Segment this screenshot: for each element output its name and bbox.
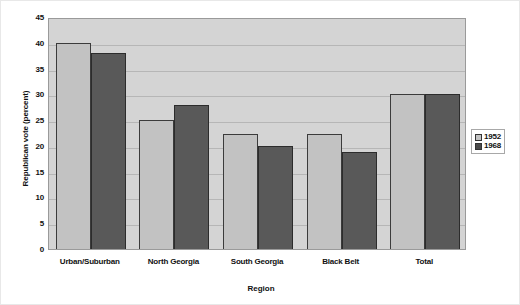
- x-tick-label-black-belt: Black Belt: [322, 257, 359, 266]
- x-tick-label-south-georgia: South Georgia: [231, 257, 284, 266]
- legend-label-1952: 1952: [484, 133, 501, 141]
- bar-group-north-georgia: [133, 19, 217, 249]
- y-tick-label-45: 45: [4, 14, 44, 22]
- bar-urban-suburban-1952[interactable]: [56, 43, 91, 249]
- bar-group-urban-suburban: [49, 19, 133, 249]
- x-tick-label-total: Total: [415, 257, 433, 266]
- legend-item-1968[interactable]: 1968: [475, 142, 501, 150]
- bar-total-1968[interactable]: [425, 94, 460, 249]
- bar-south-georgia-1952[interactable]: [223, 134, 258, 249]
- x-axis-title: Region: [1, 284, 520, 293]
- bar-north-georgia-1952[interactable]: [139, 120, 174, 249]
- bar-group-total: [383, 19, 467, 249]
- legend-swatch-1952-icon: [475, 134, 482, 141]
- bar-group-black-belt: [300, 19, 384, 249]
- y-tick-label-20: 20: [4, 143, 44, 151]
- y-tick-label-0: 0: [4, 246, 44, 254]
- y-tick-label-30: 30: [4, 91, 44, 99]
- bar-black-belt-1968[interactable]: [342, 152, 377, 249]
- y-tick-label-25: 25: [4, 117, 44, 125]
- legend-item-1952[interactable]: 1952: [475, 133, 501, 141]
- legend: 1952 1968: [471, 129, 505, 154]
- y-tick-label-35: 35: [4, 66, 44, 74]
- y-tick-label-40: 40: [4, 40, 44, 48]
- y-tick-label-15: 15: [4, 169, 44, 177]
- bar-chart: Republican vote (percent) 45 40 35 30 25…: [0, 0, 520, 305]
- plot-area: [48, 18, 466, 250]
- bar-urban-suburban-1968[interactable]: [91, 53, 126, 249]
- bar-black-belt-1952[interactable]: [307, 134, 342, 249]
- x-tick-label-urban-suburban: Urban/Suburban: [60, 257, 120, 266]
- y-tick-label-5: 5: [4, 220, 44, 228]
- bar-south-georgia-1968[interactable]: [258, 146, 293, 249]
- y-tick-label-10: 10: [4, 194, 44, 202]
- bar-total-1952[interactable]: [390, 94, 425, 249]
- x-tick-label-north-georgia: North Georgia: [148, 257, 199, 266]
- legend-swatch-1968-icon: [475, 143, 482, 150]
- bar-group-south-georgia: [216, 19, 300, 249]
- legend-label-1968: 1968: [484, 142, 501, 150]
- bar-north-georgia-1968[interactable]: [174, 105, 209, 249]
